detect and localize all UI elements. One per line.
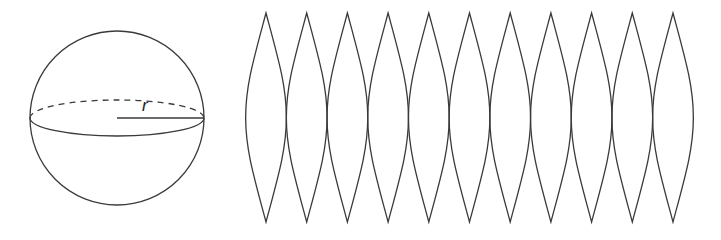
gore-segment	[368, 13, 409, 222]
sphere	[30, 31, 204, 205]
sphere-gores	[246, 13, 694, 222]
equator-front	[30, 118, 204, 136]
gore-segment	[531, 13, 572, 222]
gore-segment	[408, 13, 449, 222]
gore-segment	[612, 13, 653, 222]
equator-back-dashed	[30, 100, 204, 118]
gore-segment	[449, 13, 490, 222]
gore-segment	[490, 13, 531, 222]
gore-segment	[571, 13, 612, 222]
gore-segment	[653, 13, 694, 222]
sphere-and-gores-diagram	[0, 0, 721, 240]
gore-segment	[246, 13, 287, 222]
gore-segment	[327, 13, 368, 222]
gore-segment	[286, 13, 327, 222]
radius-label: r	[142, 97, 148, 114]
